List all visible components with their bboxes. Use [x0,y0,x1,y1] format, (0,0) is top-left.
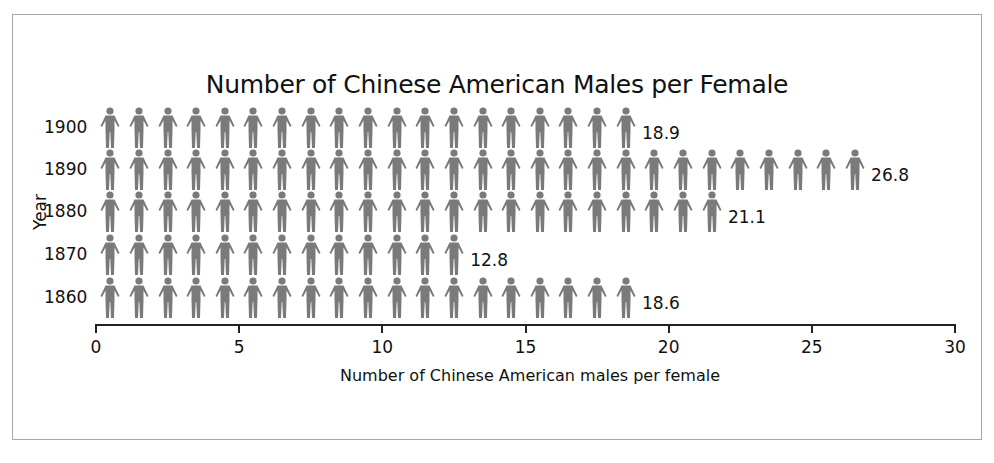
person-icon [300,234,322,276]
person-icon [615,277,637,319]
person-icon [242,149,264,191]
person-icon [643,149,665,191]
person-icon [844,149,866,191]
person-icon [414,234,436,276]
person-icon [472,149,494,191]
row-label-1860: 1860 [44,287,94,307]
person-icon [242,234,264,276]
person-icon [701,191,723,233]
x-tick-label: 30 [935,337,975,357]
person-icon [787,149,809,191]
person-icon [500,107,522,149]
person-icon [300,191,322,233]
person-icon [214,234,236,276]
person-icon [443,277,465,319]
value-label-1900: 18.9 [642,123,680,143]
person-icon [586,191,608,233]
person-icon [557,277,579,319]
x-tick [525,324,527,333]
person-icon [99,149,121,191]
person-icon [414,191,436,233]
person-icon [815,149,837,191]
person-icon [414,149,436,191]
value-label-1880: 21.1 [728,207,766,227]
x-axis-label: Number of Chinese American males per fem… [0,366,994,385]
person-icon [386,149,408,191]
person-icon [529,149,551,191]
person-icon [99,191,121,233]
value-label-1890: 26.8 [871,165,909,185]
person-icon [357,277,379,319]
x-tick [238,324,240,333]
person-icon [128,107,150,149]
person-icon [185,107,207,149]
x-tick-label: 25 [792,337,832,357]
person-icon [443,191,465,233]
person-icon [128,234,150,276]
x-tick-label: 10 [362,337,402,357]
x-tick [668,324,670,333]
person-icon [672,191,694,233]
person-icon [328,234,350,276]
row-label-1890: 1890 [44,159,94,179]
x-tick [954,324,956,333]
person-icon [615,107,637,149]
person-icon [357,234,379,276]
person-icon [615,149,637,191]
person-icon [300,149,322,191]
person-icon [443,149,465,191]
person-icon [185,234,207,276]
person-icon [672,149,694,191]
person-icon [242,277,264,319]
person-icon [500,149,522,191]
person-icon [758,149,780,191]
person-icon [500,191,522,233]
person-icon [586,149,608,191]
person-icon [357,107,379,149]
person-icon [615,191,637,233]
person-icon [271,191,293,233]
person-icon [128,149,150,191]
person-icon [157,191,179,233]
x-tick-label: 0 [76,337,116,357]
person-icon [300,107,322,149]
person-icon [271,149,293,191]
person-icon [157,234,179,276]
person-icon [99,107,121,149]
person-icon [472,191,494,233]
x-tick-label: 15 [506,337,546,357]
person-icon [242,191,264,233]
person-icon [643,191,665,233]
person-icon [529,277,551,319]
x-tick-label: 5 [219,337,259,357]
person-icon [701,149,723,191]
person-icon [357,191,379,233]
person-icon [185,149,207,191]
person-icon [328,277,350,319]
person-icon [586,107,608,149]
person-icon [472,277,494,319]
person-icon [557,107,579,149]
person-icon [386,234,408,276]
person-icon [414,107,436,149]
person-icon [529,191,551,233]
person-icon [557,191,579,233]
person-icon [214,149,236,191]
x-tick-label: 20 [649,337,689,357]
person-icon [185,191,207,233]
person-icon [443,234,465,276]
person-icon [472,107,494,149]
person-icon [271,234,293,276]
person-icon [386,277,408,319]
person-icon [214,277,236,319]
person-icon [242,107,264,149]
person-icon [185,277,207,319]
person-icon [529,107,551,149]
person-icon [357,149,379,191]
person-icon [300,277,322,319]
x-tick [95,324,97,333]
person-icon [729,149,751,191]
value-label-1860: 18.6 [642,293,680,313]
person-icon [157,107,179,149]
person-icon [271,277,293,319]
